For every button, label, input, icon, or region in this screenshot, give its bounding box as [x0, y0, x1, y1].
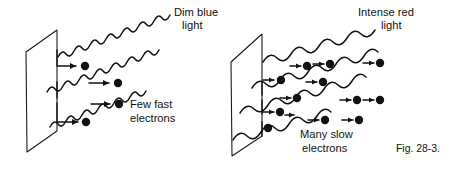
electron-right-9	[276, 108, 284, 116]
arrowhead-right-4	[269, 78, 274, 83]
panel-right: Intense red light Many slow electrons	[231, 6, 414, 156]
wave-right-3	[240, 74, 366, 113]
electron-right-8	[376, 96, 384, 104]
figure-canvas: Dim blue light Few fast electrons	[0, 0, 451, 171]
photoelectric-effect-figure: Dim blue light Few fast electrons	[0, 0, 451, 171]
electron-right-11	[355, 116, 363, 124]
light-label-right-line1: Intense red	[358, 6, 414, 18]
light-label-left-line1: Dim blue	[174, 6, 218, 18]
wave-right-1	[263, 30, 375, 62]
electron-left-4	[82, 118, 90, 126]
electron-group-right-9	[263, 108, 284, 116]
electron-left-1	[81, 62, 89, 70]
electron-group-right-5	[306, 78, 327, 86]
electron-group-right-7	[340, 96, 361, 104]
electron-right-12	[264, 124, 272, 132]
electron-right-6	[293, 94, 301, 102]
arrowhead-right-1	[296, 64, 301, 69]
electron-right-5	[319, 78, 327, 86]
figure-caption: Fig. 28-3.	[396, 143, 440, 154]
electron-right-2	[326, 60, 334, 68]
light-label-right-line2: light	[381, 19, 402, 31]
arrowhead-right-5	[312, 80, 317, 85]
electron-group-left-2	[89, 79, 122, 87]
electron-group-right-3	[363, 59, 384, 67]
light-waves-left	[47, 15, 170, 127]
electron-left-2	[114, 79, 122, 87]
arrowhead-right-3	[369, 61, 374, 66]
arrowhead-right-2	[319, 62, 324, 67]
electron-group-right-6	[280, 94, 301, 102]
arrowhead-left-2	[103, 80, 109, 86]
electron-right-3	[376, 59, 384, 67]
metal-plate-left	[26, 30, 57, 152]
light-label-left-line2: light	[182, 19, 203, 31]
electron-group-right-1	[290, 62, 311, 70]
electron-group-right-4	[263, 76, 285, 84]
electron-right-1	[303, 62, 311, 70]
electron-group-right-13	[285, 113, 294, 118]
arrowhead-right-6	[286, 96, 291, 101]
result-label-left-line2: electrons	[130, 112, 176, 124]
electron-right-10	[321, 116, 329, 124]
result-label-right-line2: electrons	[302, 142, 348, 154]
arrowhead-left-1	[70, 63, 76, 69]
arrowhead-right-9	[269, 110, 274, 115]
electron-group-right-2	[313, 60, 334, 68]
arrowhead-right-10	[314, 118, 319, 123]
electron-right-4	[277, 76, 285, 84]
arrowhead-right-11	[348, 118, 353, 123]
arrowhead-right-13	[289, 113, 294, 118]
electron-group-right-10	[308, 116, 329, 124]
light-waves-right	[233, 30, 378, 140]
electron-group-right-11	[342, 116, 363, 124]
ejected-electrons-left	[58, 62, 123, 126]
electron-left-3	[115, 100, 123, 108]
electron-group-left-1	[58, 62, 89, 70]
wave-left-1	[58, 15, 170, 57]
result-label-left-line1: Few fast	[130, 98, 173, 110]
arrowhead-right-7	[346, 98, 351, 103]
panel-left: Dim blue light Few fast electrons	[26, 6, 218, 152]
electron-right-7	[353, 96, 361, 104]
electron-group-right-8	[363, 96, 384, 104]
metal-plate-right	[231, 34, 262, 156]
result-label-right-line1: Many slow	[300, 128, 354, 140]
arrowhead-right-8	[369, 98, 374, 103]
